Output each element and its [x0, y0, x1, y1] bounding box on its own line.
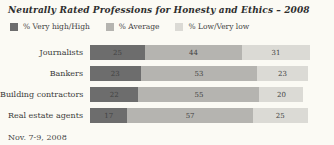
legend-item-very-high: % Very high/High: [10, 22, 90, 31]
chart-row-real-estate-agents: Real estate agents 17 57 25: [0, 105, 334, 126]
bar-segment-low: 25: [253, 108, 308, 123]
bar: 17 57 25: [90, 108, 310, 123]
survey-date: Nov. 7-9, 2008: [0, 133, 334, 142]
bar-segment-very-high: 22: [90, 87, 138, 102]
bar-segment-average: 53: [141, 66, 258, 81]
chart-title: Neutrally Rated Professions for Honesty …: [0, 0, 334, 15]
bar-segment-low: 23: [257, 66, 308, 81]
bar: 22 55 20: [90, 87, 310, 102]
stacked-bar-chart: Journalists 25 44 31 Bankers 23 53 23 Bu…: [0, 42, 334, 126]
bar-segment-average: 57: [127, 108, 252, 123]
legend-swatch-low-icon: [175, 23, 183, 31]
legend-label-average: % Average: [119, 22, 160, 31]
chart-row-bankers: Bankers 23 53 23: [0, 63, 334, 84]
legend-item-average: % Average: [106, 22, 160, 31]
bar-segment-very-high: 17: [90, 108, 127, 123]
legend-swatch-very-high-icon: [10, 23, 18, 31]
bar-segment-low: 20: [259, 87, 303, 102]
bar-segment-very-high: 23: [90, 66, 141, 81]
legend: % Very high/High % Average % Low/Very lo…: [0, 22, 334, 31]
row-label: Real estate agents: [0, 111, 90, 120]
bar-segment-average: 55: [138, 87, 259, 102]
row-label: Journalists: [0, 48, 90, 57]
chart-row-journalists: Journalists 25 44 31: [0, 42, 334, 63]
row-label: Building contractors: [0, 90, 90, 99]
legend-item-low: % Low/Very low: [175, 22, 249, 31]
bar: 25 44 31: [90, 45, 310, 60]
legend-label-low: % Low/Very low: [188, 22, 249, 31]
chart-row-building-contractors: Building contractors 22 55 20: [0, 84, 334, 105]
legend-label-very-high: % Very high/High: [23, 22, 90, 31]
bar: 23 53 23: [90, 66, 310, 81]
bar-segment-average: 44: [145, 45, 242, 60]
bar-segment-very-high: 25: [90, 45, 145, 60]
legend-swatch-average-icon: [106, 23, 114, 31]
bar-segment-low: 31: [242, 45, 310, 60]
row-label: Bankers: [0, 69, 90, 78]
